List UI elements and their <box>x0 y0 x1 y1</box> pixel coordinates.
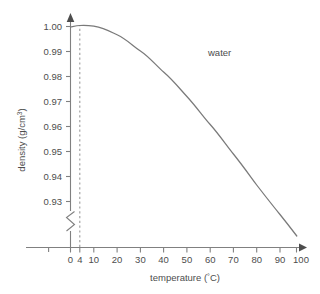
y-tick-label: 0.93 <box>44 196 63 207</box>
y-axis-title: density (g/cm3) <box>16 108 27 171</box>
x-tick-label: 30 <box>135 254 146 265</box>
y-axis-title-tail: ) <box>16 108 27 111</box>
y-tick-group: 1.00 0.99 0.98 0.97 0.96 0.95 0.94 0.93 <box>44 21 71 207</box>
y-tick-label: 0.94 <box>44 171 63 182</box>
x-tick-label: 4 <box>77 254 82 265</box>
y-axis-title-base: density (g/cm <box>16 115 27 172</box>
x-axis-arrow-icon <box>299 244 307 252</box>
chart-figure: 1.00 0.99 0.98 0.97 0.96 0.95 0.94 0.93 <box>0 0 320 294</box>
x-tick-label: 20 <box>112 254 123 265</box>
x-tick-label: 0 <box>68 254 73 265</box>
x-tick-label: 100 <box>293 254 309 265</box>
x-axis-title-tail: C) <box>210 272 220 283</box>
x-tick-label: 40 <box>158 254 169 265</box>
y-tick-label: 1.00 <box>44 21 63 32</box>
x-tick-label: 90 <box>275 254 286 265</box>
y-tick-label: 0.96 <box>44 121 63 132</box>
x-tick-label: 50 <box>182 254 193 265</box>
y-tick-label: 0.97 <box>44 96 63 107</box>
x-tick-label: 60 <box>205 254 216 265</box>
y-axis-break-icon <box>66 211 75 231</box>
series-annotation-water: water <box>207 47 231 58</box>
y-tick-label: 0.98 <box>44 71 63 82</box>
y-tick-label: 0.99 <box>44 46 63 57</box>
x-tick-label: 10 <box>89 254 100 265</box>
y-axis-arrow-icon <box>67 13 75 22</box>
x-axis-title-base: temperature ( <box>150 272 208 283</box>
x-tick-group: 0 4 10 20 30 40 50 60 70 <box>49 248 309 266</box>
density-temperature-line-chart: 1.00 0.99 0.98 0.97 0.96 0.95 0.94 0.93 <box>0 0 320 294</box>
y-tick-label: 0.95 <box>44 146 63 157</box>
x-tick-label: 70 <box>228 254 239 265</box>
x-tick-label: 80 <box>251 254 262 265</box>
x-axis-title: temperature (°C) <box>150 272 220 283</box>
series-line-water <box>71 25 297 236</box>
